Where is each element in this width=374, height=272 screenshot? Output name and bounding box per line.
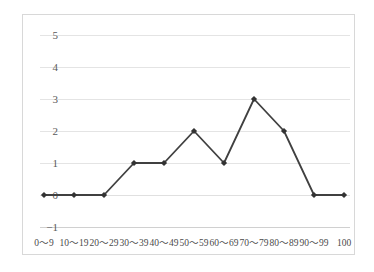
series-line-chart xyxy=(0,0,374,272)
data-point-marker xyxy=(311,192,317,198)
series-line xyxy=(44,99,344,195)
chart-figure: 543210−1 0～910～1920～2930～3940～4950～5960～… xyxy=(0,0,374,272)
data-point-marker xyxy=(341,192,347,198)
data-point-marker xyxy=(71,192,77,198)
data-point-marker xyxy=(41,192,47,198)
